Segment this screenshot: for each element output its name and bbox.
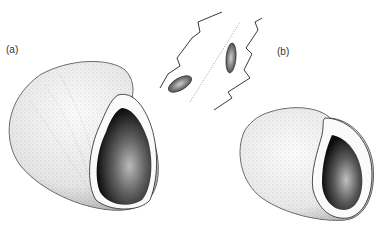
- oval-pellet-right: [225, 43, 238, 74]
- illustration-canvas: [0, 0, 390, 233]
- wavy-line-left: [160, 12, 222, 88]
- label-a: (a): [6, 44, 18, 55]
- label-b: (b): [277, 46, 289, 57]
- burrow-diagram: [160, 12, 262, 110]
- wavy-line-right: [214, 18, 262, 110]
- shell-b: [240, 108, 373, 221]
- oval-pellet-left: [166, 72, 195, 95]
- shell-a: [9, 62, 158, 211]
- figure: (a) (b): [0, 0, 390, 233]
